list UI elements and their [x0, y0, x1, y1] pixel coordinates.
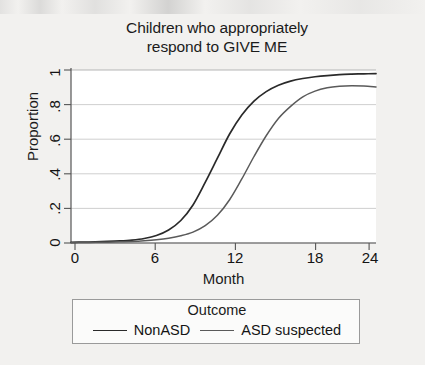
legend-line-icon-nonasd: [93, 330, 127, 331]
figure-canvas: Children who appropriately respond to GI…: [0, 0, 425, 365]
legend-line-icon-asd-suspected: [200, 330, 234, 331]
legend-entries: NonASD ASD suspected: [73, 322, 361, 338]
legend-entry-nonasd[interactable]: NonASD: [93, 322, 190, 338]
plot-background: [71, 70, 376, 243]
plot-area: [0, 0, 425, 300]
legend-label-asd-suspected: ASD suspected: [241, 322, 341, 338]
legend: Outcome NonASD ASD suspected: [72, 299, 360, 344]
legend-entry-asd-suspected[interactable]: ASD suspected: [200, 322, 341, 338]
legend-title: Outcome: [73, 302, 361, 318]
x-axis-ticks: [75, 243, 369, 250]
y-axis-ticks: [64, 70, 71, 243]
legend-label-nonasd: NonASD: [134, 322, 190, 338]
